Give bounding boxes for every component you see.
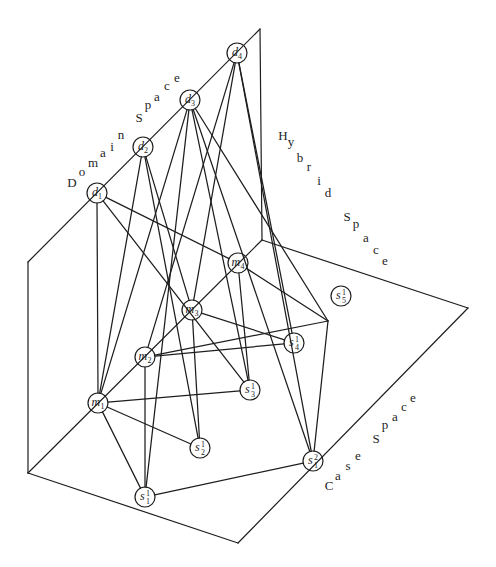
node-subscript: 1 (314, 461, 318, 470)
edge-d3-s1 (146, 110, 189, 487)
node-s2: s12 (190, 438, 210, 458)
node-label-m4: m4 (232, 255, 245, 271)
hybrid-space-label: Hybrid Space (278, 128, 388, 268)
node-s1: s11 (135, 487, 155, 507)
edges (97, 63, 328, 495)
node-subscript: 1 (146, 497, 150, 506)
node-symbol: s (289, 335, 294, 349)
node-label-s5: s15 (336, 288, 346, 305)
node-circle (284, 333, 304, 353)
node-subscript: 3 (251, 390, 255, 399)
node-symbol: s (336, 288, 341, 302)
node-label-s1b: s21 (308, 453, 318, 470)
node-circle (135, 487, 155, 507)
node-label-d1: d1 (92, 185, 102, 201)
node-subscript: 2 (148, 356, 152, 365)
edge-m1-s1 (103, 412, 141, 488)
node-circle (303, 451, 323, 471)
node-s3: s13 (240, 380, 260, 400)
node-m2: m2 (135, 347, 155, 367)
node-label-d4: d4 (232, 45, 242, 61)
case-space-label: Case Space (325, 390, 416, 493)
node-symbol: s (245, 382, 250, 396)
node-subscript: 3 (195, 309, 199, 318)
node-s5: s15 (331, 286, 351, 306)
edge-d1-m1 (97, 203, 98, 393)
node-circle (331, 286, 351, 306)
edge-d2-s2 (145, 157, 198, 438)
node-subscript: 4 (295, 343, 299, 352)
node-subscript: 2 (201, 448, 205, 457)
edge-m1-s3 (108, 391, 240, 402)
node-subscript: 5 (342, 296, 346, 305)
node-s1b: s21 (303, 451, 323, 471)
edge-m2-s4 (155, 344, 284, 356)
node-subscript: 2 (144, 146, 148, 155)
node-m1: m1 (88, 393, 108, 413)
node-label-s3: s13 (245, 382, 255, 399)
node-symbol: m (92, 395, 101, 409)
node-label-d3: d3 (185, 92, 195, 108)
node-d3: d3 (180, 90, 200, 110)
node-symbol: m (186, 302, 195, 316)
node-symbol: s (195, 440, 200, 454)
hybrid-space-diagram: Domain Space Hybrid Space Case Space d1d… (0, 0, 496, 567)
node-subscript: 4 (238, 52, 242, 61)
edge-m3-s2 (193, 320, 200, 438)
edge-s1-s1b (155, 463, 303, 495)
node-label-s4: s14 (289, 335, 299, 352)
node-circle (190, 438, 210, 458)
edge-m4-j (246, 268, 328, 321)
node-subscript: 4 (241, 262, 245, 271)
hybrid-plane-vertical-edge (260, 29, 262, 240)
node-label-m1: m1 (92, 395, 105, 411)
node-symbol: s (140, 489, 145, 503)
node-label-s1: s11 (140, 489, 150, 506)
node-d1: d1 (87, 183, 107, 203)
node-symbol: m (139, 349, 148, 363)
node-d4: d4 (227, 43, 247, 63)
node-circle (240, 380, 260, 400)
node-d2: d2 (133, 137, 153, 157)
node-label-d2: d2 (138, 139, 148, 155)
node-symbol: m (232, 255, 241, 269)
node-symbol: s (308, 453, 313, 467)
edge-j-s1b (314, 321, 328, 451)
domain-space-label: Domain Space (67, 70, 180, 190)
node-s4: s14 (284, 333, 304, 353)
edge-m1-s2 (107, 407, 191, 444)
node-subscript: 1 (98, 192, 102, 201)
node-subscript: 1 (101, 402, 105, 411)
node-m3: m3 (182, 300, 202, 320)
node-subscript: 3 (191, 99, 195, 108)
node-label-s2: s12 (195, 440, 205, 457)
